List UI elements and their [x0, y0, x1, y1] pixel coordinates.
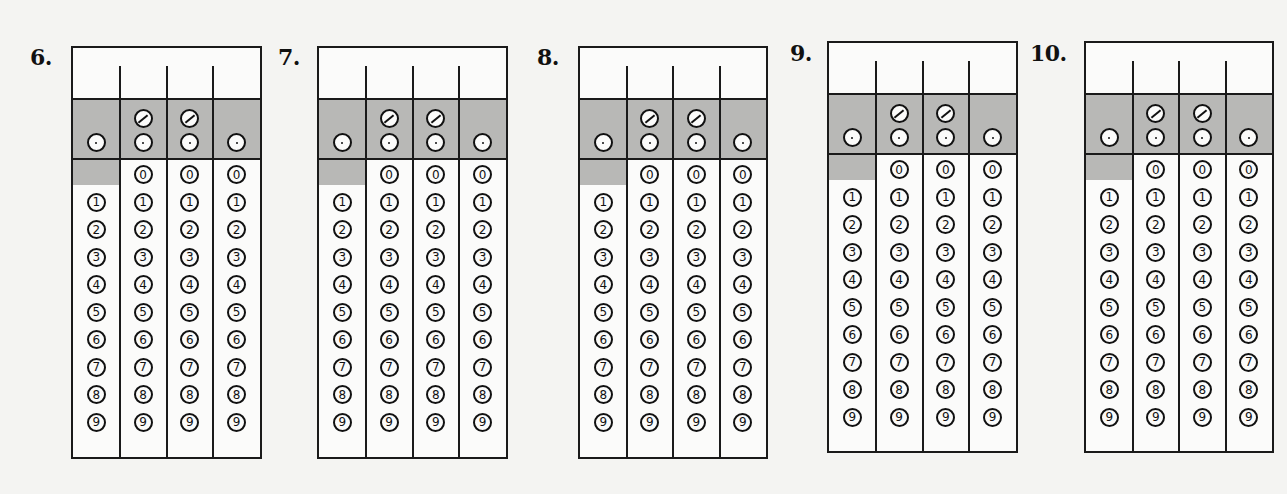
digit-bubble-6[interactable]: 6	[594, 330, 613, 349]
digit-bubble-7[interactable]: 7	[983, 353, 1002, 372]
digit-bubble-4[interactable]: 4	[333, 275, 352, 294]
digit-bubble-2[interactable]: 2	[1146, 215, 1165, 234]
digit-bubble-4[interactable]: 4	[473, 275, 492, 294]
digit-bubble-5[interactable]: 5	[640, 303, 659, 322]
digit-bubble-2[interactable]: 2	[1100, 215, 1119, 234]
digit-bubble-6[interactable]: 6	[227, 330, 246, 349]
digit-bubble-1[interactable]: 1	[227, 193, 246, 212]
digit-bubble-6[interactable]: 6	[180, 330, 199, 349]
digit-bubble-0[interactable]: 0	[227, 165, 246, 184]
digit-bubble-8[interactable]: 8	[180, 385, 199, 404]
digit-bubble-3[interactable]: 3	[87, 248, 106, 267]
digit-bubble-3[interactable]: 3	[733, 248, 752, 267]
fraction-bar-bubble[interactable]	[890, 104, 909, 123]
decimal-point-bubble[interactable]	[473, 133, 492, 152]
answer-write-row[interactable]	[1086, 43, 1272, 95]
digit-bubble-6[interactable]: 6	[1239, 325, 1258, 344]
decimal-point-bubble[interactable]	[594, 133, 613, 152]
digit-bubble-2[interactable]: 2	[134, 220, 153, 239]
digit-bubble-7[interactable]: 7	[1100, 353, 1119, 372]
digit-bubble-0[interactable]: 0	[890, 160, 909, 179]
digit-bubble-7[interactable]: 7	[473, 358, 492, 377]
digit-bubble-8[interactable]: 8	[640, 385, 659, 404]
digit-bubble-9[interactable]: 9	[1193, 408, 1212, 427]
digit-bubble-7[interactable]: 7	[426, 358, 445, 377]
digit-bubble-9[interactable]: 9	[594, 413, 613, 432]
digit-bubble-5[interactable]: 5	[936, 298, 955, 317]
digit-bubble-7[interactable]: 7	[380, 358, 399, 377]
digit-bubble-3[interactable]: 3	[380, 248, 399, 267]
digit-bubble-6[interactable]: 6	[687, 330, 706, 349]
digit-bubble-7[interactable]: 7	[1146, 353, 1165, 372]
digit-bubble-9[interactable]: 9	[426, 413, 445, 432]
digit-bubble-7[interactable]: 7	[333, 358, 352, 377]
decimal-point-bubble[interactable]	[380, 133, 399, 152]
fraction-bar-bubble[interactable]	[134, 109, 153, 128]
digit-bubble-5[interactable]: 5	[227, 303, 246, 322]
digit-bubble-4[interactable]: 4	[87, 275, 106, 294]
digit-bubble-3[interactable]: 3	[180, 248, 199, 267]
digit-bubble-8[interactable]: 8	[890, 380, 909, 399]
digit-bubble-5[interactable]: 5	[594, 303, 613, 322]
digit-bubble-1[interactable]: 1	[1146, 188, 1165, 207]
digit-bubble-2[interactable]: 2	[640, 220, 659, 239]
digit-bubble-7[interactable]: 7	[87, 358, 106, 377]
decimal-point-bubble[interactable]	[687, 133, 706, 152]
digit-bubble-1[interactable]: 1	[936, 188, 955, 207]
answer-write-row[interactable]	[319, 48, 506, 100]
digit-bubble-5[interactable]: 5	[333, 303, 352, 322]
digit-bubble-6[interactable]: 6	[1100, 325, 1119, 344]
digit-bubble-2[interactable]: 2	[426, 220, 445, 239]
digit-bubble-1[interactable]: 1	[333, 193, 352, 212]
digit-bubble-9[interactable]: 9	[983, 408, 1002, 427]
digit-bubble-9[interactable]: 9	[733, 413, 752, 432]
digit-bubble-1[interactable]: 1	[843, 188, 862, 207]
digit-bubble-5[interactable]: 5	[180, 303, 199, 322]
digit-bubble-8[interactable]: 8	[687, 385, 706, 404]
digit-bubble-1[interactable]: 1	[1193, 188, 1212, 207]
digit-bubble-4[interactable]: 4	[843, 270, 862, 289]
digit-bubble-8[interactable]: 8	[936, 380, 955, 399]
digit-bubble-6[interactable]: 6	[333, 330, 352, 349]
digit-bubble-3[interactable]: 3	[983, 243, 1002, 262]
digit-bubble-5[interactable]: 5	[134, 303, 153, 322]
decimal-point-bubble[interactable]	[333, 133, 352, 152]
digit-bubble-5[interactable]: 5	[380, 303, 399, 322]
digit-bubble-6[interactable]: 6	[640, 330, 659, 349]
digit-bubble-2[interactable]: 2	[890, 215, 909, 234]
digit-bubble-2[interactable]: 2	[594, 220, 613, 239]
decimal-point-bubble[interactable]	[843, 128, 862, 147]
digit-bubble-1[interactable]: 1	[733, 193, 752, 212]
digit-bubble-9[interactable]: 9	[1100, 408, 1119, 427]
digit-bubble-5[interactable]: 5	[733, 303, 752, 322]
digit-bubble-8[interactable]: 8	[380, 385, 399, 404]
digit-bubble-8[interactable]: 8	[227, 385, 246, 404]
digit-bubble-2[interactable]: 2	[87, 220, 106, 239]
decimal-point-bubble[interactable]	[1193, 128, 1212, 147]
fraction-bar-bubble[interactable]	[687, 109, 706, 128]
digit-bubble-4[interactable]: 4	[1100, 270, 1119, 289]
digit-bubble-0[interactable]: 0	[733, 165, 752, 184]
digit-bubble-0[interactable]: 0	[473, 165, 492, 184]
digit-bubble-4[interactable]: 4	[227, 275, 246, 294]
digit-bubble-9[interactable]: 9	[134, 413, 153, 432]
digit-bubble-9[interactable]: 9	[936, 408, 955, 427]
digit-bubble-4[interactable]: 4	[380, 275, 399, 294]
digit-bubble-3[interactable]: 3	[134, 248, 153, 267]
digit-bubble-1[interactable]: 1	[1100, 188, 1119, 207]
digit-bubble-1[interactable]: 1	[134, 193, 153, 212]
decimal-point-bubble[interactable]	[983, 128, 1002, 147]
digit-bubble-8[interactable]: 8	[134, 385, 153, 404]
answer-write-row[interactable]	[829, 43, 1016, 95]
digit-bubble-5[interactable]: 5	[687, 303, 706, 322]
digit-bubble-3[interactable]: 3	[227, 248, 246, 267]
digit-bubble-1[interactable]: 1	[594, 193, 613, 212]
digit-bubble-7[interactable]: 7	[227, 358, 246, 377]
digit-bubble-1[interactable]: 1	[426, 193, 445, 212]
digit-bubble-4[interactable]: 4	[134, 275, 153, 294]
digit-bubble-0[interactable]: 0	[983, 160, 1002, 179]
decimal-point-bubble[interactable]	[134, 133, 153, 152]
digit-bubble-4[interactable]: 4	[890, 270, 909, 289]
digit-bubble-7[interactable]: 7	[936, 353, 955, 372]
digit-bubble-5[interactable]: 5	[87, 303, 106, 322]
